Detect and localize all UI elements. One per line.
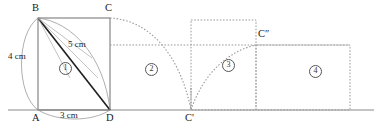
point-label-C-prime: C' [185, 113, 194, 124]
region-label-2: 2 [145, 63, 158, 76]
point-label-D: D [106, 113, 114, 124]
region-2-badge: 2 [145, 63, 158, 76]
region-1-badge: 1 [59, 62, 72, 75]
region-label-4: 4 [309, 65, 322, 78]
arc-b-to-a [22, 18, 39, 110]
point-label-C: C [105, 3, 112, 14]
point-label-B: B [32, 3, 39, 14]
point-label-A: A [32, 113, 40, 124]
region-label-1: 1 [59, 62, 72, 75]
diagram-canvas: B C A D C' C″ 4 cm 5 cm 3 cm 1 2 3 4 [0, 0, 381, 129]
dimension-hypotenuse: 5 cm [68, 40, 86, 49]
region-3-badge: 3 [222, 59, 235, 72]
region-label-3: 3 [222, 59, 235, 72]
geometry-figure [0, 0, 381, 129]
locus-c-prime-to-c-double-prime [191, 45, 256, 110]
region-4-badge: 4 [309, 65, 322, 78]
rect-position-4 [256, 45, 350, 110]
point-label-C-double-prime: C″ [258, 29, 269, 40]
dimension-height: 4 cm [8, 52, 26, 61]
dimension-base: 3 cm [60, 111, 78, 120]
diagonal-bd [38, 18, 110, 110]
